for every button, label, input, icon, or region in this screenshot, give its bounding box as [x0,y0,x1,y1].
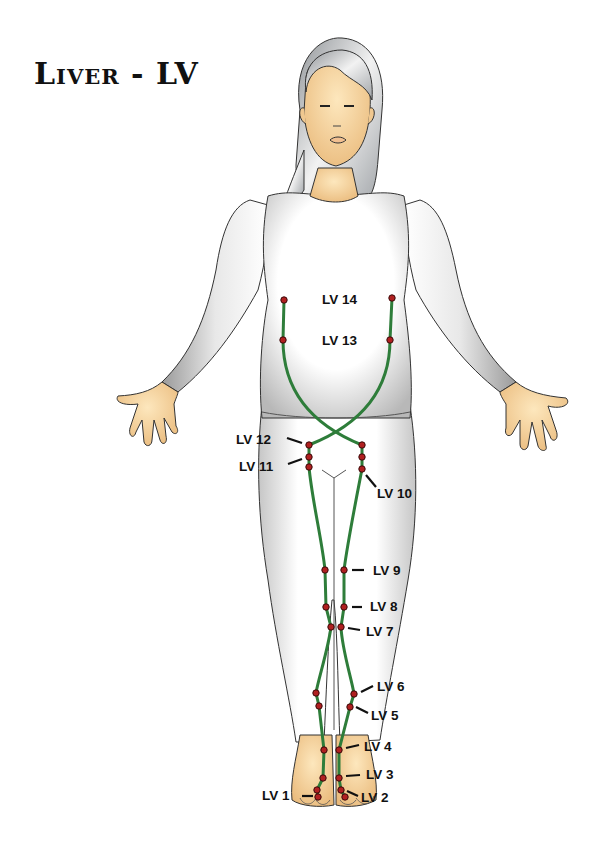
acupoint-lv7-left [328,624,334,630]
acupoint-lv10-left [306,464,312,470]
acupoint-lv13-left [280,337,286,343]
acupoint-lv9-right [341,567,347,573]
lv3-leader [346,775,360,776]
acupoint-lv3-right [336,775,342,781]
acupoint-lv11-left [306,454,312,460]
right-hand [500,382,568,451]
acupoint-lv5-right [347,704,353,710]
acupoint-lv12-left [306,442,312,448]
neck [310,168,358,202]
left-sleeve [162,200,269,392]
label-lv8: LV 8 [370,600,398,614]
acupoint-lv7-right [338,624,344,630]
acupoint-lv8-right [341,604,347,610]
acupoint-lv14-left [281,297,287,303]
label-lv1: LV 1 [262,789,290,803]
right-sleeve [404,200,516,392]
acupoint-lv6-right [351,691,357,697]
label-lv7: LV 7 [366,625,394,639]
acupoint-lv4-right [336,747,342,753]
label-lv12: LV 12 [236,433,271,447]
label-lv13: LV 13 [322,334,357,348]
label-lv2: LV 2 [361,791,389,805]
acupoint-lv1-left [315,794,321,800]
label-lv5: LV 5 [371,709,399,723]
acupoint-lv10-right [359,466,365,472]
acupoint-lv3-left [320,775,326,781]
acupoint-lv4-left [321,747,327,753]
acupoint-lv5-left [316,703,322,709]
acupoint-lv1-right [342,794,348,800]
acupoint-lv11-right [359,454,365,460]
left-hand [117,382,178,446]
body-figure [0,0,606,848]
label-lv9: LV 9 [373,564,401,578]
acupoint-lv8-left [323,604,329,610]
label-lv14: LV 14 [322,293,357,307]
acupoint-lv9-left [322,567,328,573]
acupoint-lv12-right [359,442,365,448]
acupoint-lv2-right [338,787,344,793]
label-lv3: LV 3 [366,768,394,782]
acupoint-lv2-left [314,787,320,793]
acupoint-lv13-right [387,337,393,343]
acupoint-lv14-right [389,295,395,301]
label-lv6: LV 6 [377,680,405,694]
acupoint-lv6-left [313,690,319,696]
label-lv11: LV 11 [239,460,273,474]
label-lv4: LV 4 [364,740,392,754]
label-lv10: LV 10 [377,487,412,501]
